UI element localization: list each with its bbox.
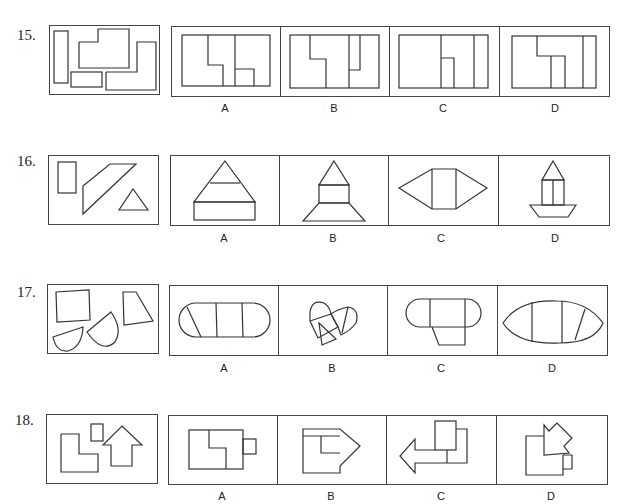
option-18-b-label: B [321, 490, 341, 502]
option-16-a-shapes [170, 155, 280, 226]
question-18-shapes [46, 414, 158, 484]
option-16-c-label: C [431, 232, 451, 244]
option-15-a-label: A [215, 102, 235, 114]
option-15-d-shapes [499, 26, 610, 97]
option-18-c-shapes [386, 415, 497, 485]
option-15-d-label: D [545, 102, 565, 114]
option-16-b-label: B [323, 232, 343, 244]
option-17-d-shapes [497, 285, 608, 356]
option-18-b-shapes [277, 415, 387, 485]
option-18-d-label: D [541, 490, 561, 502]
question-number-16: 16. [17, 153, 36, 170]
question-number-18: 18. [15, 412, 34, 429]
option-16-b-shapes [279, 155, 389, 226]
option-16-c-shapes [388, 155, 499, 226]
option-16-d-label: D [545, 232, 565, 244]
option-16-d-shapes [498, 155, 610, 226]
question-number-17: 17. [17, 284, 36, 301]
option-17-b-shapes [278, 285, 388, 356]
question-17-shapes [47, 284, 159, 354]
option-17-c-shapes [387, 285, 498, 356]
option-18-c-label: C [431, 490, 451, 502]
option-15-b-label: B [324, 102, 344, 114]
option-15-a-shapes [171, 26, 281, 97]
option-15-b-shapes [280, 26, 390, 97]
question-number-15: 15. [17, 27, 36, 44]
question-16-shapes [48, 155, 159, 225]
option-17-c-label: C [431, 362, 451, 374]
option-18-a-label: A [212, 490, 232, 502]
option-17-d-label: D [542, 362, 562, 374]
option-17-a-label: A [214, 362, 234, 374]
option-17-b-label: B [322, 362, 342, 374]
option-15-c-shapes [389, 26, 500, 97]
option-18-a-shapes [168, 415, 278, 485]
option-16-a-label: A [214, 232, 234, 244]
option-17-a-shapes [169, 285, 279, 356]
option-18-d-shapes [496, 415, 608, 485]
option-15-c-label: C [433, 102, 453, 114]
question-15-shapes [49, 25, 160, 95]
